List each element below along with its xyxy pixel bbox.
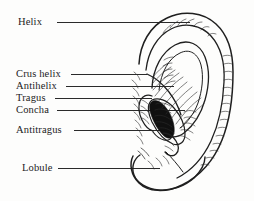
- lobule-path: [133, 155, 205, 190]
- leader-lines-group: [55, 22, 190, 168]
- hatching-group: [132, 19, 232, 169]
- label-antitragus: Antitragus: [16, 124, 62, 135]
- helix-outer-rim-path: [131, 13, 233, 190]
- label-concha: Concha: [16, 104, 49, 115]
- label-antihelix: Antihelix: [16, 80, 57, 91]
- tragus-tuft-path: [138, 148, 149, 159]
- ear-drawing-group: [131, 13, 233, 190]
- ear-anatomy-figure: Helix Crus helix Antihelix Tragus Concha…: [0, 0, 254, 201]
- label-crus-helix: Crus helix: [16, 68, 61, 79]
- label-lobule: Lobule: [22, 162, 53, 173]
- label-helix: Helix: [18, 16, 42, 27]
- label-tragus: Tragus: [16, 92, 46, 103]
